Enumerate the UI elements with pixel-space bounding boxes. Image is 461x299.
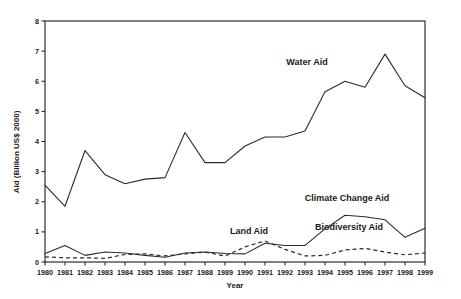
- x-tick-label: 1991: [257, 268, 273, 277]
- annotation-group: Land Aid: [230, 226, 268, 236]
- y-tick-label: 4: [35, 137, 39, 146]
- y-tick-label: 7: [35, 47, 39, 56]
- x-tick-label: 1992: [277, 268, 293, 277]
- x-tick-label: 1987: [177, 268, 193, 277]
- annotation-land-aid: Land Aid: [230, 226, 268, 236]
- series-label-biodiversity-aid: Biodiversity Aid: [315, 222, 383, 232]
- x-tick-label: 1990: [237, 268, 253, 277]
- series-label-water-aid: Water Aid: [286, 57, 327, 67]
- x-tick-label: 1986: [157, 268, 173, 277]
- y-tick-label: 3: [35, 167, 39, 176]
- x-axis: 1980198119821983198419851986198719881989…: [37, 262, 433, 277]
- x-tick-label: 1988: [197, 268, 213, 277]
- y-axis: 012345678: [35, 17, 45, 267]
- series-line-biodiversity-aid: [45, 241, 425, 258]
- x-tick-label: 1995: [337, 268, 353, 277]
- series-label-climate-change-aid: Climate Change Aid: [305, 193, 390, 203]
- x-tick-label: 1981: [57, 268, 73, 277]
- y-tick-label: 2: [35, 197, 39, 206]
- x-tick-label: 1997: [377, 268, 393, 277]
- line-chart: 012345678 198019811982198319841985198619…: [0, 0, 461, 299]
- x-tick-label: 1996: [357, 268, 373, 277]
- series-label-group: Water AidClimate Change AidBiodiversity …: [286, 57, 389, 233]
- x-tick-label: 1983: [97, 268, 113, 277]
- y-tick-label: 6: [35, 77, 39, 86]
- x-tick-label: 1982: [77, 268, 93, 277]
- x-tick-label: 1999: [417, 268, 433, 277]
- x-tick-label: 1994: [317, 268, 333, 277]
- y-axis-title: Aid (Billion US$ 2000): [12, 110, 21, 193]
- y-tick-label: 0: [35, 258, 39, 267]
- series-line-water-aid: [45, 54, 425, 206]
- y-tick-label: 8: [35, 17, 39, 26]
- x-tick-label: 1989: [217, 268, 233, 277]
- x-tick-label: 1984: [117, 268, 133, 277]
- x-axis-title: Year: [227, 281, 244, 290]
- x-tick-label: 1993: [297, 268, 313, 277]
- y-tick-label: 5: [35, 107, 39, 116]
- chart-figure: 012345678 198019811982198319841985198619…: [0, 0, 461, 299]
- x-tick-label: 1980: [37, 268, 53, 277]
- x-tick-label: 1998: [397, 268, 413, 277]
- x-tick-label: 1985: [137, 268, 153, 277]
- y-tick-label: 1: [35, 227, 39, 236]
